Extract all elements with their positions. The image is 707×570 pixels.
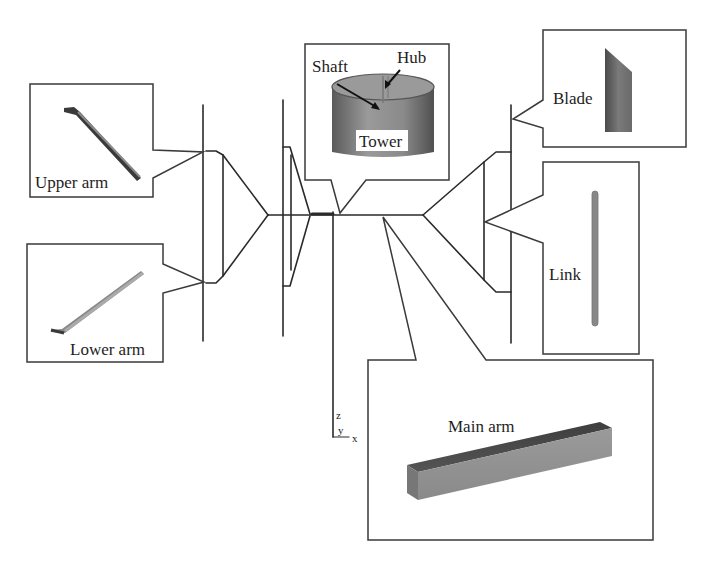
callout-upper-arm: Upper arm [30,84,203,197]
callout-blade: Blade [513,30,686,147]
wind-turbine-diagram: z y x Upper arm Lower arm [0,0,707,570]
blade-label: Blade [553,89,593,108]
callout-link: Link [485,162,639,354]
upper-arm-label: Upper arm [35,173,108,192]
callout-lower-arm: Lower arm [27,244,204,362]
lower-arm-label: Lower arm [70,340,145,359]
callout-tower: Shaft Hub Tower [305,44,449,213]
axis-x-label: x [352,432,358,444]
link-label: Link [549,265,582,284]
tower-label: Tower [359,132,403,151]
axis-y-label: y [338,424,344,436]
shaft-label: Shaft [312,57,348,76]
main-arm-label: Main arm [448,417,515,436]
axis-z-label: z [336,409,341,421]
link-part [592,191,598,326]
hub-label: Hub [397,48,426,67]
axis-triad: z y x [333,409,358,444]
